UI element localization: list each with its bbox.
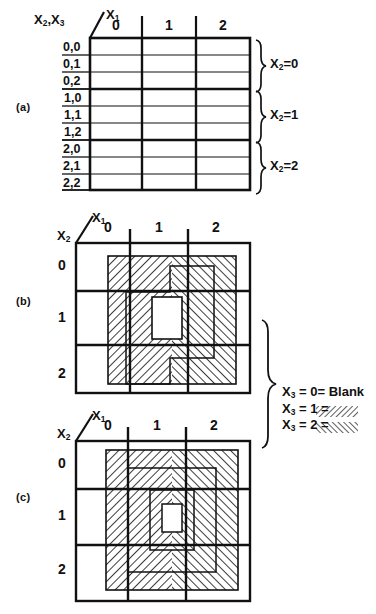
part-a-brace-val-0: 0 — [291, 56, 298, 71]
legend-eq2-2: = — [321, 417, 329, 432]
part-b-row-header-2: 2 — [58, 366, 66, 380]
part-b-group — [76, 216, 250, 393]
part-b-col-header-1: 1 — [155, 220, 163, 234]
part-c-letter: (c) — [16, 492, 30, 503]
part-b-letter: (b) — [16, 296, 31, 307]
part-a-brace-val-2: 2 — [291, 158, 298, 173]
part-a-brace-eq-2: = — [283, 158, 291, 173]
part-b-center-blank-cell — [152, 297, 182, 339]
part-a-col-header-0: 0 — [112, 18, 120, 32]
part-c-center-blank-cell — [162, 504, 182, 532]
legend-swatch-text-0: Blank — [329, 384, 364, 399]
part-a-row-header-1: 0,1 — [63, 58, 80, 71]
part-c-row-header-0: 0 — [58, 456, 66, 470]
part-a-col-header-1: 1 — [165, 18, 173, 32]
legend-eq2-0: = — [317, 384, 325, 399]
legend-item-1: X3 = 1 = — [282, 402, 329, 415]
part-a-row-header-2: 0,2 — [63, 75, 80, 88]
part-a-brace-label-2: X2=2 — [270, 159, 298, 172]
legend-eq1-2: = — [299, 417, 307, 432]
part-c-row-header-1: 1 — [58, 508, 66, 522]
part-a-brace-label-1: X2=1 — [270, 108, 298, 121]
part-c-col-header-2: 2 — [210, 418, 218, 432]
part-a-letter: (a) — [16, 102, 30, 113]
figure-root — [0, 0, 376, 614]
part-b-col-header-0: 0 — [104, 220, 112, 234]
part-a-row-header-6: 2,0 — [63, 143, 80, 156]
part-a-row-header-8: 2,2 — [63, 177, 80, 190]
part-a-row-header-5: 1,2 — [64, 126, 81, 139]
part-a-row-header-4: 1,1 — [64, 109, 81, 122]
part-a-row-header-3: 1,0 — [64, 92, 81, 105]
part-b-row-header-0: 0 — [58, 258, 66, 272]
part-c-corner-diagonal — [76, 414, 93, 441]
part-c-col-header-0: 0 — [104, 418, 112, 432]
part-b-col-header-2: 2 — [212, 220, 220, 234]
part-c-row-var-label: X2 — [57, 427, 70, 440]
part-c-group — [76, 414, 250, 601]
part-c-row-header-2: 2 — [58, 562, 66, 576]
legend-item-0: X3 = 0= Blank — [282, 385, 364, 398]
part-a-brace-val-1: 1 — [291, 107, 298, 122]
part-a-row-var-text: X2,X3 — [34, 12, 64, 27]
part-b-row-header-1: 1 — [58, 310, 66, 324]
part-a-brace-eq-0: = — [283, 56, 291, 71]
ternary-karnaugh-figure — [0, 0, 376, 614]
part-a-brace-1 — [256, 91, 266, 143]
part-a-corner-diagonal — [90, 12, 104, 38]
legend-eq2-1: = — [321, 401, 329, 416]
legend-eq1-0: = — [299, 384, 307, 399]
part-a-table-outline — [90, 38, 250, 190]
legend-item-2: X3 = 2 = — [282, 418, 329, 431]
part-a-row-header-7: 2,1 — [63, 160, 80, 173]
part-a-brace-eq-1: = — [283, 107, 291, 122]
part-a-row-var-label: X2,X3 — [34, 13, 64, 26]
legend-value-2: 2 — [310, 417, 317, 432]
part-a-col-header-2: 2 — [219, 18, 227, 32]
part-a-brace-label-0: X2=0 — [270, 57, 298, 70]
part-a-row-header-0: 0,0 — [63, 41, 80, 54]
part-c-col-header-1: 1 — [153, 418, 161, 432]
part-a-brace-0 — [256, 40, 266, 92]
part-b-row-var-label: X2 — [57, 229, 70, 242]
part-b-corner-diagonal — [76, 216, 93, 243]
part-a-brace-2 — [256, 142, 266, 194]
legend-brace — [262, 320, 276, 448]
legend-eq1-1: = — [299, 401, 307, 416]
legend-value-1: 1 — [310, 401, 317, 416]
part-a-group — [62, 12, 266, 194]
